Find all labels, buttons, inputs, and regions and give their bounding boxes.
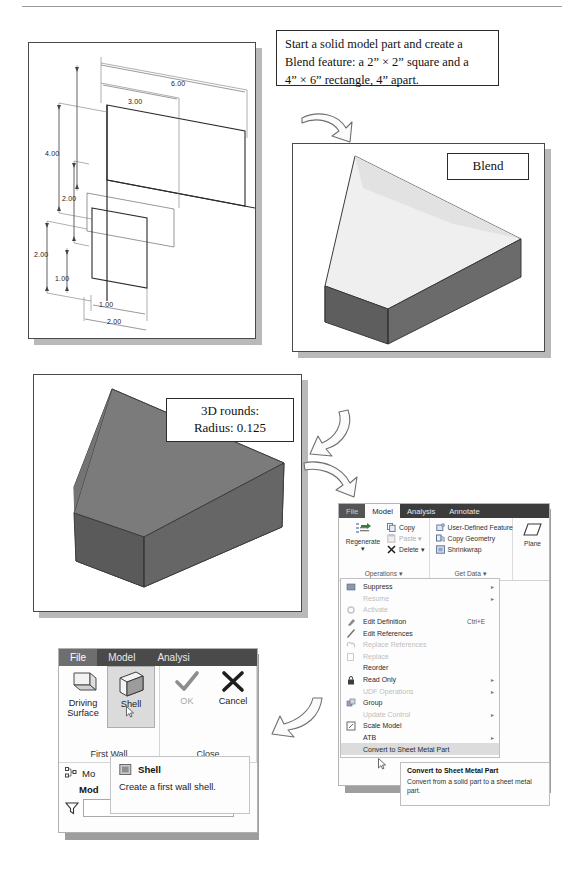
convert-tooltip-body: Convert from a solid part to a sheet met… (407, 777, 543, 795)
delete-icon (387, 545, 396, 554)
shell-tab-file[interactable]: File (59, 649, 97, 666)
menu-label-reorder: Reorder (363, 664, 388, 671)
shell-tab-file-label: File (70, 652, 86, 663)
menu-item-reorder[interactable]: Reorder (341, 662, 499, 674)
menu-item-group[interactable]: Group (341, 697, 499, 709)
submenu-arrow-icon: ▸ (491, 583, 494, 590)
convert-tooltip: Convert to Sheet Metal Part Convert from… (400, 762, 550, 806)
shell-tab-model-label: Model (108, 652, 135, 663)
paste-menu-item[interactable]: Paste ▾ (387, 534, 425, 543)
menu-label-suppress: Suppress (363, 583, 393, 590)
shell-tab-analysis-label: Analysi (157, 652, 189, 663)
plane-button[interactable]: Plane (517, 521, 549, 571)
group-close: OK Cancel Close (160, 666, 257, 762)
drawing-shadow-right (256, 48, 262, 345)
shell-button[interactable]: Shell (107, 666, 155, 728)
group-get-data: User-Defined Feature Copy Geometry (430, 518, 513, 580)
delete-menu-item[interactable]: Delete ▾ (387, 545, 425, 554)
dim-4-00: 4.00 (45, 150, 59, 157)
menu-item-replace[interactable]: Replace (341, 651, 499, 663)
menu-item-resume[interactable]: Resume ▸ (341, 593, 499, 605)
group-datum: Plane (513, 518, 550, 580)
replace-icon (346, 652, 356, 662)
dim-2-00-left: 2.00 (34, 251, 48, 258)
menu-item-scale-model[interactable]: Scale Model (341, 720, 499, 732)
blend-label-text: Blend (472, 157, 503, 176)
mouse-cursor-shell (126, 706, 135, 718)
submenu-arrow-icon: ▸ (491, 676, 494, 683)
blend-label-callout: Blend (447, 153, 529, 180)
plane-icon (523, 521, 543, 539)
shell-tab-analysis[interactable]: Analysi (146, 649, 200, 666)
filter-icon[interactable] (65, 801, 79, 815)
x-icon (220, 670, 246, 694)
menu-label-udf-operations: UDF Operations (363, 688, 414, 695)
regenerate-label: Regenerate▾ (346, 538, 380, 553)
tab-model[interactable]: Model (365, 504, 400, 518)
udf-label: User-Defined Feature (448, 524, 513, 531)
shell-tooltip-title: Shell (138, 764, 161, 775)
copy-menu-item[interactable]: Copy (387, 523, 425, 532)
shell-tooltip-header: Shell (119, 763, 241, 776)
tab-analysis-label: Analysis (407, 507, 435, 516)
instruction-callout: Start a solid model part and create a Bl… (276, 30, 499, 86)
ok-label: OK (180, 696, 193, 706)
driving-surface-label: DrivingSurface (67, 698, 99, 719)
ok-button[interactable]: OK (164, 666, 210, 706)
menu-item-suppress[interactable]: Suppress ▸ (341, 581, 499, 593)
shrinkwrap-icon (436, 545, 445, 554)
scale-model-icon (346, 721, 356, 731)
menu-label-atb: ATB (363, 734, 376, 741)
menu-item-activate[interactable]: Activate (341, 604, 499, 616)
tab-model-label: Model (372, 507, 393, 516)
model-context-menu: Suppress ▸ Resume ▸ Activate Edit Defini… (340, 578, 500, 758)
lock-icon (346, 675, 356, 685)
menu-label-convert-to-sheet-metal: Convert to Sheet Metal Part (363, 746, 449, 753)
page-root: 6.00 3.00 4.00 2.00 2.00 1.00 1.00 2.00 … (0, 0, 579, 871)
operations-small-items: Copy Paste ▾ (387, 521, 425, 570)
menu-item-udf-operations[interactable]: UDF Operations ▸ (341, 685, 499, 697)
convert-tooltip-title: Convert to Sheet Metal Part (407, 767, 543, 774)
suppress-icon (346, 582, 356, 592)
menu-item-edit-references[interactable]: Edit References (341, 627, 499, 639)
menu-label-read-only: Read Only (363, 676, 396, 683)
tab-file[interactable]: File (339, 504, 365, 518)
flow-arrow-4 (264, 694, 330, 744)
tab-analysis[interactable]: Analysis (400, 504, 442, 518)
menu-item-edit-definition[interactable]: Edit Definition Ctrl+E (341, 616, 499, 628)
cancel-button[interactable]: Cancel (210, 666, 256, 706)
instruction-line-1: Start a solid model part and create a (285, 36, 490, 54)
copy-icon (387, 523, 396, 532)
tab-annotate[interactable]: Annotate (442, 504, 486, 518)
driving-surface-button[interactable]: DrivingSurface (59, 666, 107, 719)
menu-item-update-control[interactable]: Update Control ▸ (341, 709, 499, 721)
menu-item-replace-references[interactable]: Replace References (341, 639, 499, 651)
shell-ribbon-content: DrivingSurface Shell First Wall (59, 666, 257, 763)
user-defined-feature-item[interactable]: User-Defined Feature (436, 523, 513, 532)
submenu-arrow-icon: ▸ (491, 734, 494, 741)
plane-label: Plane (524, 540, 541, 547)
copy-label: Copy (399, 524, 415, 531)
menu-label-replace-references: Replace References (363, 641, 426, 648)
shell-tooltip-body: Create a first wall shell. (119, 781, 241, 792)
shell-tab-model[interactable]: Model (97, 649, 146, 666)
drawing-svg (29, 43, 255, 338)
flow-arrow-3 (298, 457, 364, 505)
edit-ref-icon (346, 628, 356, 638)
menu-label-replace: Replace (363, 653, 389, 660)
shell-icon (117, 671, 145, 697)
paste-icon (387, 534, 396, 543)
copy-geometry-item[interactable]: Copy Geometry (436, 534, 513, 543)
instruction-line-3: 4” × 6” rectangle, 4” apart. (285, 72, 490, 90)
ribbon-tabbar: File Model Analysis Annotate (339, 504, 549, 518)
shrinkwrap-item[interactable]: Shrinkwrap (436, 545, 513, 554)
menu-item-atb[interactable]: ATB ▸ (341, 732, 499, 744)
replace-ref-icon (346, 640, 356, 650)
menu-item-read-only[interactable]: Read Only ▸ (341, 674, 499, 686)
submenu-arrow-icon: ▸ (491, 595, 494, 602)
regenerate-button[interactable]: Regenerate▾ (343, 521, 383, 570)
menu-label-update-control: Update Control (363, 711, 410, 718)
delete-label: Delete ▾ (399, 546, 425, 554)
menu-item-convert-to-sheet-metal-part[interactable]: Convert to Sheet Metal Part (341, 743, 499, 755)
model-tree-icon (65, 767, 77, 779)
